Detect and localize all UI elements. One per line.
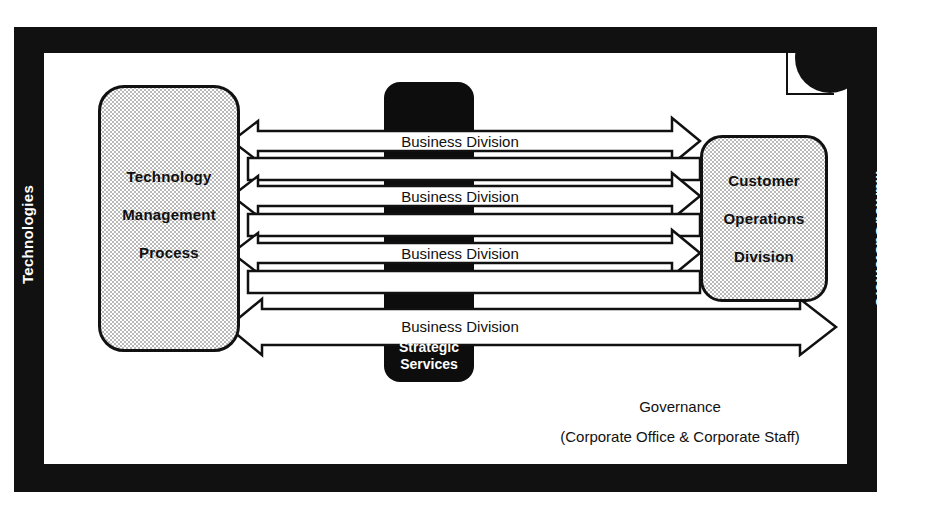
right-entity-line-3: Division bbox=[703, 238, 825, 276]
connector-bar-3 bbox=[248, 271, 700, 293]
connector-bar-1 bbox=[248, 158, 700, 180]
left-entity-label: Technology Management Process bbox=[101, 158, 237, 272]
strategic-services-line-2: Services bbox=[384, 356, 474, 373]
arrow-label-4: Business Division bbox=[330, 318, 590, 335]
right-entity-line-1: Customer bbox=[703, 162, 825, 200]
right-entity-line-2: Operations bbox=[703, 200, 825, 238]
left-entity-box: Technology Management Process bbox=[98, 85, 240, 352]
strategic-services-line-1: Strategic bbox=[384, 339, 474, 356]
left-entity-line-2: Management bbox=[101, 196, 237, 234]
connector-bar-2 bbox=[248, 214, 700, 236]
arrow-label-1: Business Division bbox=[330, 133, 590, 150]
governance-title: Governance bbox=[600, 398, 760, 415]
arrow-label-3: Business Division bbox=[330, 245, 590, 262]
left-entity-line-1: Technology bbox=[101, 158, 237, 196]
diagram-canvas: Technologies Market/Customers Business D… bbox=[0, 0, 926, 522]
right-entity-label: Customer Operations Division bbox=[703, 162, 825, 276]
arrow-label-2: Business Division bbox=[330, 188, 590, 205]
right-entity-box: Customer Operations Division bbox=[700, 135, 828, 302]
governance-subtitle: (Corporate Office & Corporate Staff) bbox=[480, 428, 880, 445]
left-entity-line-3: Process bbox=[101, 234, 237, 272]
strategic-services-label: Strategic Services bbox=[384, 339, 474, 373]
